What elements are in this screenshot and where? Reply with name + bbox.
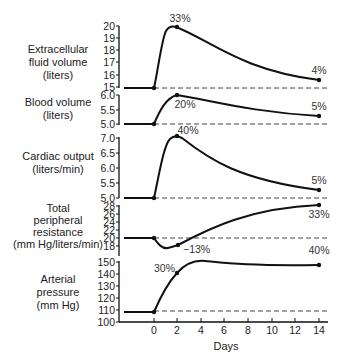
- ylabel-line: (mm Hg): [37, 299, 80, 311]
- ylabel-line: pressure: [37, 286, 80, 298]
- panel-total-peripheral-resistance: Total peripheral resistance (mm Hg/liter…: [13, 200, 329, 256]
- ylabel-line: (liters): [43, 69, 74, 81]
- panel-cardiac-output: Cardiac output (liters/min) 7.0 6.5 6.0 …: [22, 124, 328, 204]
- data-line: [124, 95, 319, 124]
- x-axis-label: Days: [213, 340, 239, 352]
- y-tick-label: 150: [97, 256, 115, 268]
- y-tick-label: 18: [103, 44, 115, 56]
- x-tick-label: 14: [313, 324, 325, 336]
- y-tick-label: 130: [97, 280, 115, 292]
- y-tick-label: 17: [103, 56, 115, 68]
- data-line: [124, 26, 319, 88]
- y-tick-label: 6.0: [100, 162, 115, 174]
- data-line: [124, 136, 319, 198]
- x-tick-label: 4: [198, 324, 204, 336]
- y-tick-label: 5.5: [100, 177, 115, 189]
- annotation-peak: −13%: [183, 243, 210, 255]
- x-tick-label: 6: [221, 324, 227, 336]
- panel-extracellular-fluid-volume: Extracellular fluid volume (liters) 20 1…: [28, 12, 328, 93]
- ylabel-line: Blood volume: [25, 96, 92, 108]
- panel-arterial-pressure: Arterial pressure (mm Hg) 150 140 130 12…: [37, 244, 330, 328]
- x-tick-label: 2: [174, 324, 180, 336]
- annotation-end: 5%: [311, 100, 326, 112]
- y-tick-label: 6.5: [100, 147, 115, 159]
- ylabel-line: resistance: [33, 226, 83, 238]
- y-tick-label: 16: [103, 69, 115, 81]
- ylabel-line: Arterial: [41, 273, 76, 285]
- ylabel-line: fluid volume: [29, 56, 88, 68]
- y-tick-label: 120: [97, 292, 115, 304]
- ylabel-line: peripheral: [34, 214, 83, 226]
- x-tick-label: 12: [289, 324, 301, 336]
- y-tick-label: 5.5: [100, 104, 115, 116]
- x-tick-label: 8: [245, 324, 251, 336]
- data-line: [124, 205, 319, 248]
- y-tick-label: 7.0: [100, 132, 115, 144]
- y-tick-label: 19: [103, 32, 115, 44]
- ylabel-line: (mm Hg/liters/min): [13, 238, 103, 250]
- annotation-peak: 33%: [169, 12, 190, 24]
- ylabel-line: Extracellular: [28, 43, 89, 55]
- annotation-end: 4%: [311, 64, 326, 76]
- annotation-end: 40%: [308, 244, 329, 256]
- x-tick-label: 10: [266, 324, 278, 336]
- y-tick-label: 100: [97, 316, 115, 328]
- ylabel-line: Cardiac output: [22, 150, 94, 162]
- x-tick-label: 0: [151, 324, 157, 336]
- y-tick-label: 18: [103, 240, 115, 252]
- annotation-peak: 30%: [154, 262, 175, 274]
- annotation-end: 5%: [311, 174, 326, 186]
- annotation-end: 33%: [308, 208, 329, 220]
- ylabel-line: Total: [46, 202, 69, 214]
- y-tick-label: 5.0: [100, 118, 115, 130]
- y-tick-label: 20: [103, 20, 115, 32]
- y-tick-label: 140: [97, 268, 115, 280]
- y-tick-label: 110: [98, 304, 115, 316]
- ylabel-line: (liters/min): [32, 163, 83, 175]
- annotation-peak: 20%: [174, 98, 195, 110]
- panel-blood-volume: Blood volume (liters) 6.0 5.5 5.0 20% 5%: [25, 89, 328, 130]
- hemodynamics-chart: Extracellular fluid volume (liters) 20 1…: [0, 0, 344, 362]
- ylabel-line: (liters): [43, 109, 74, 121]
- x-axis: 0 2 4 6 8 10 12 14 Days: [119, 318, 328, 352]
- y-tick-label: 6.0: [100, 89, 115, 101]
- annotation-peak: 40%: [177, 124, 198, 136]
